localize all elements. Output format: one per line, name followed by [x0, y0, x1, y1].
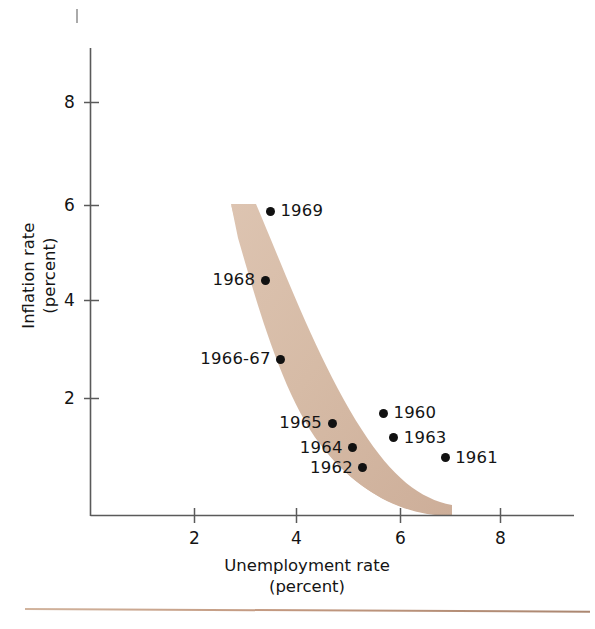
x-tick-label-2: 2	[189, 530, 200, 547]
data-label-1965: 1965	[279, 415, 322, 432]
x-axis-title-line1: Unemployment rate	[224, 556, 390, 575]
y-tick-label-2: 2	[64, 390, 75, 407]
data-label-1969: 1969	[280, 203, 323, 220]
x-tick-label-8: 8	[495, 530, 506, 547]
data-point-1966-67	[276, 355, 285, 364]
y-axis-title-line2: (percent)	[40, 196, 61, 356]
x-tick-label-6: 6	[395, 530, 406, 547]
y-axis-title-line1: Inflation rate	[19, 223, 38, 329]
data-point-1961	[441, 453, 450, 462]
y-axis-title: Inflation rate (percent)	[19, 196, 60, 356]
data-label-1964: 1964	[300, 440, 343, 457]
y-tick-label-6: 6	[64, 197, 75, 214]
x-axis-title: Unemployment rate (percent)	[197, 556, 417, 597]
data-label-1963: 1963	[404, 430, 447, 447]
data-point-1969	[266, 207, 275, 216]
y-tick-label-4: 4	[64, 292, 75, 309]
data-label-1966-67: 1966-67	[200, 351, 270, 368]
data-label-1968: 1968	[212, 272, 255, 289]
data-point-1968	[261, 276, 270, 285]
data-point-1960	[379, 409, 388, 418]
phillips-curve-figure: 1969 1968 1966-67 1965 1964 1962 1960 19…	[0, 0, 595, 629]
y-tick-label-8: 8	[64, 94, 75, 111]
x-axis-title-line2: (percent)	[197, 577, 417, 598]
x-tick-label-4: 4	[291, 530, 302, 547]
data-point-1965	[328, 419, 337, 428]
data-label-1961: 1961	[455, 450, 498, 467]
data-label-1960: 1960	[393, 405, 436, 422]
data-label-1962: 1962	[310, 460, 353, 477]
